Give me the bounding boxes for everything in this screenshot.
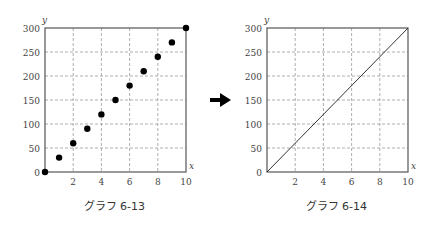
data-point <box>56 154 62 160</box>
x-tick-label: 10 <box>180 177 192 187</box>
x-tick-label: 2 <box>70 177 76 187</box>
y-tick-label: 150 <box>23 96 40 106</box>
y-tick-label: 100 <box>23 120 40 130</box>
data-point <box>42 169 48 175</box>
data-point <box>98 111 104 117</box>
y-tick-label: 150 <box>245 96 262 106</box>
x-tick-label: 8 <box>155 177 161 187</box>
y-tick-label: 50 <box>29 144 41 154</box>
data-point <box>183 25 189 31</box>
data-point <box>155 54 161 60</box>
right-arrow-icon <box>220 93 231 107</box>
data-point <box>141 68 147 74</box>
data-point <box>84 126 90 132</box>
data-point <box>169 39 175 45</box>
y-tick-label: 0 <box>34 168 40 178</box>
data-point <box>70 140 76 146</box>
charts-canvas: 050100150200250300246810yx05010015020025… <box>0 0 441 228</box>
y-tick-label: 300 <box>23 24 40 34</box>
chart-caption-right: グラフ 6-14 <box>306 197 367 213</box>
y-tick-label: 300 <box>245 24 262 34</box>
data-point <box>126 82 132 88</box>
x-axis-label: x <box>189 161 194 171</box>
x-tick-label: 4 <box>321 177 327 187</box>
y-tick-label: 200 <box>245 72 262 82</box>
y-tick-label: 250 <box>245 48 262 58</box>
y-tick-label: 50 <box>251 144 263 154</box>
y-tick-label: 0 <box>256 168 262 178</box>
y-axis-label: y <box>41 15 48 25</box>
data-point <box>112 97 118 103</box>
y-tick-label: 250 <box>23 48 40 58</box>
x-tick-label: 6 <box>349 177 355 187</box>
chart-caption-left: グラフ 6-13 <box>84 197 145 213</box>
x-axis-label: x <box>411 161 416 171</box>
x-tick-label: 6 <box>127 177 133 187</box>
y-axis-label: y <box>263 15 270 25</box>
x-tick-label: 4 <box>99 177 105 187</box>
x-tick-label: 8 <box>377 177 383 187</box>
x-tick-label: 10 <box>402 177 414 187</box>
y-tick-label: 200 <box>23 72 40 82</box>
y-tick-label: 100 <box>245 120 262 130</box>
x-tick-label: 2 <box>292 177 298 187</box>
